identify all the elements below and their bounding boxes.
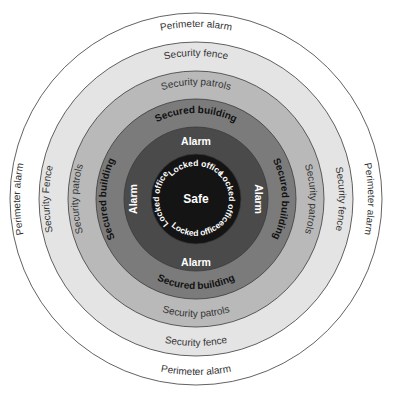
security-layers-diagram: Perimeter alarm Perimeter alarm Perimete…	[0, 0, 395, 400]
label-alarm-top: Alarm	[181, 135, 211, 147]
label-safe: Safe	[183, 192, 209, 206]
label-alarm-right: Alarm	[253, 184, 265, 214]
label-alarm-bottom: Alarm	[181, 256, 211, 268]
label-alarm-left: Alarm	[127, 184, 139, 214]
